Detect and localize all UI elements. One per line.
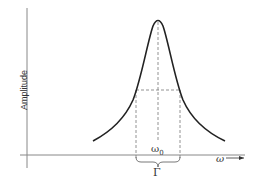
x-axis-label: ω	[216, 153, 224, 164]
width-label: Γ	[153, 166, 161, 179]
y-axis-label: Amplitude	[19, 60, 29, 120]
peak-frequency-label: ω0	[151, 143, 164, 157]
x-arrow-head	[239, 156, 244, 160]
resonance-curve	[93, 21, 225, 142]
